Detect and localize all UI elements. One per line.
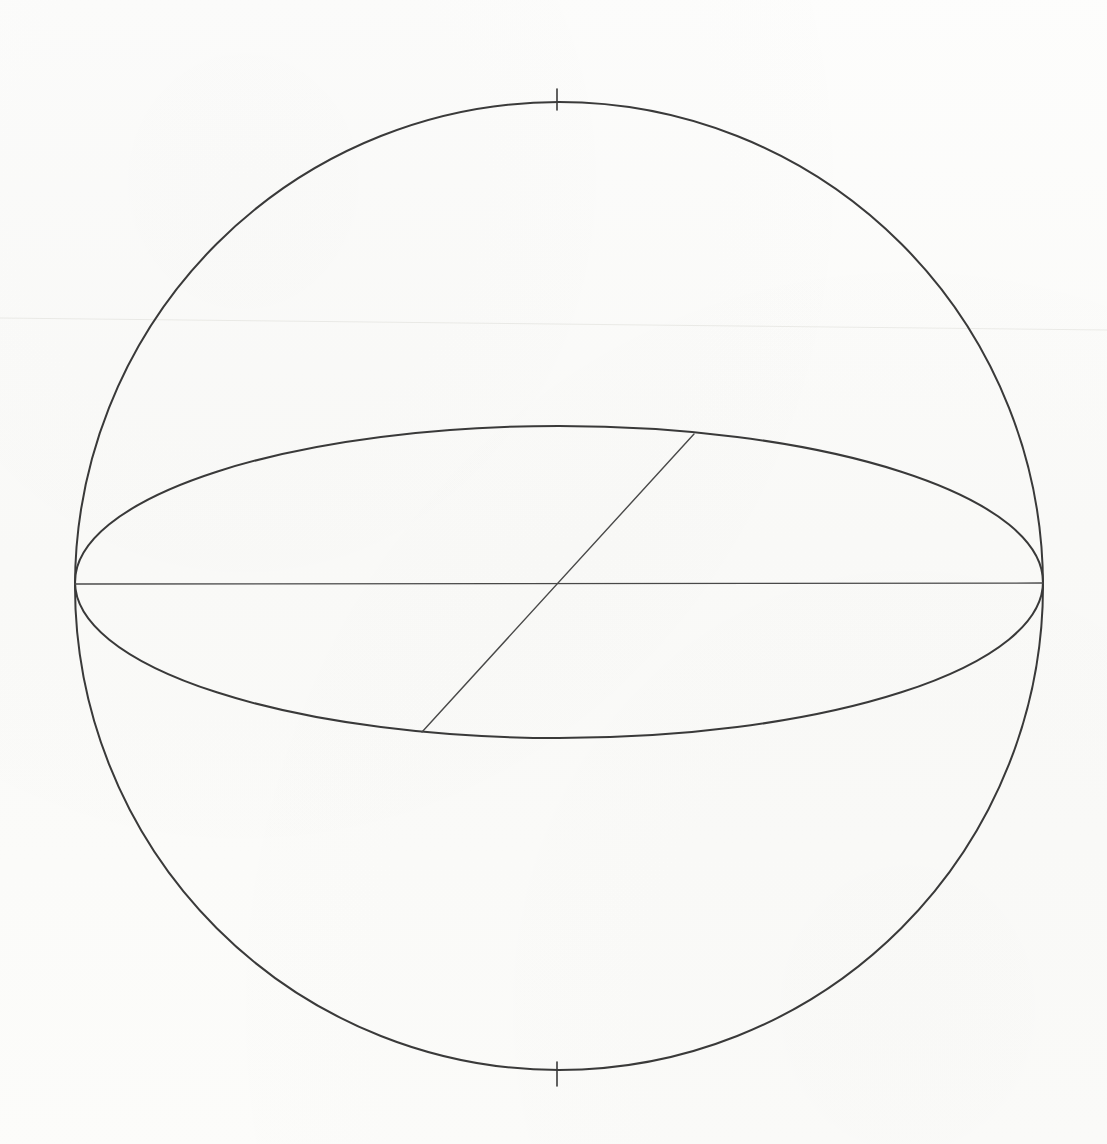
- sphere-outline: [75, 102, 1043, 1070]
- scan-artifact-line: [0, 318, 1107, 330]
- horizontal-diameter: [75, 583, 1043, 584]
- figure-root: [0, 0, 1107, 1144]
- sphere-diagram-svg: [0, 0, 1107, 1144]
